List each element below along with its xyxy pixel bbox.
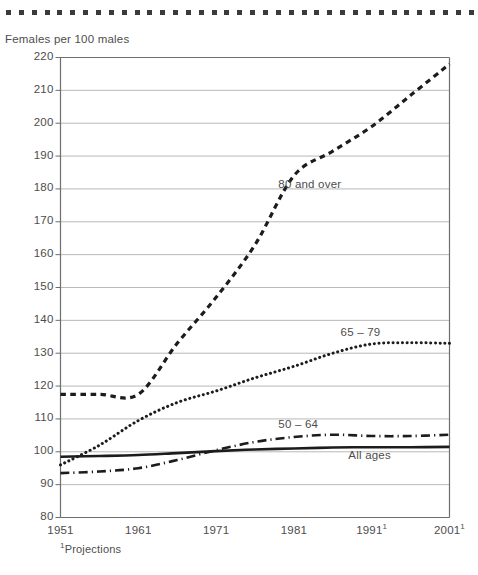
y-tick-label-90: 90 — [20, 477, 54, 489]
footnote-text: Projections — [65, 543, 122, 555]
y-tick-label-150: 150 — [20, 280, 54, 292]
series-label-80-and-over: 80 and over — [278, 178, 341, 190]
y-tick-label-180: 180 — [20, 181, 54, 193]
series-label-65-79: 65 – 79 — [341, 326, 381, 338]
y-tick-label-190: 190 — [20, 149, 54, 161]
series-line-50-64 — [61, 435, 450, 473]
series-label-50-64: 50 – 64 — [278, 418, 318, 430]
y-tick-label-100: 100 — [20, 444, 54, 456]
y-tick-label-160: 160 — [20, 247, 54, 259]
x-tick-label-1961: 1961 — [108, 524, 168, 536]
footnote-marker: 1 — [460, 522, 465, 531]
series-line-80-and-over — [61, 64, 450, 398]
y-tick-label-140: 140 — [20, 313, 54, 325]
chart-footnote: 1Projections — [60, 543, 121, 555]
y-tick-label-170: 170 — [20, 214, 54, 226]
y-tick-label-80: 80 — [20, 510, 54, 522]
y-tick-label-120: 120 — [20, 379, 54, 391]
y-tick-label-220: 220 — [20, 50, 54, 62]
series-label-all-ages: All ages — [348, 449, 391, 461]
footnote-marker: 1 — [383, 522, 388, 531]
x-tick-label-1981: 1981 — [264, 524, 324, 536]
y-tick-label-210: 210 — [20, 83, 54, 95]
x-tick-label-1971: 1971 — [186, 524, 246, 536]
x-tick-label-1991: 19911 — [342, 524, 402, 536]
y-tick-label-130: 130 — [20, 346, 54, 358]
x-tick-label-1951: 1951 — [31, 524, 91, 536]
x-tick-label-2001: 20011 — [420, 524, 478, 536]
y-tick-label-110: 110 — [20, 411, 54, 423]
y-tick-label-200: 200 — [20, 116, 54, 128]
